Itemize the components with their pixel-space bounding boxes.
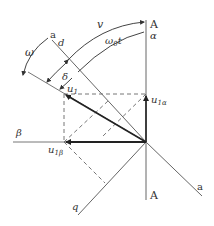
phasor-diagram: A α A β a a d q ω v ω0t δ u1 u1α u1β [0, 0, 214, 226]
label-u1alpha: u1α [151, 94, 167, 107]
u1-vector [66, 95, 146, 142]
label-q: q [72, 201, 78, 212]
label-omega: ω [25, 46, 34, 59]
label-a-top: a [50, 29, 56, 40]
label-v: v [97, 18, 104, 31]
q-axis [78, 142, 146, 215]
q-projection-lower [64, 142, 105, 183]
label-u1beta: u1β [48, 144, 63, 157]
label-A-bottom: A [149, 189, 159, 202]
label-beta: β [15, 127, 22, 138]
label-delta: δ [62, 71, 68, 82]
a-axis [146, 142, 202, 196]
label-d: d [58, 37, 64, 48]
label-a-bottom: a [197, 181, 203, 192]
label-omega0t: ω0t [105, 35, 123, 48]
label-alpha: α [150, 30, 157, 41]
